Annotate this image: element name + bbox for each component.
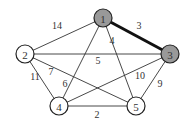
edge-weight-label: 7 [49, 66, 54, 77]
node-label: 4 [56, 101, 62, 113]
node-label: 1 [100, 13, 106, 25]
edge-weight-label: 10 [135, 70, 145, 81]
edge-weight-label: 5 [96, 55, 101, 66]
edge-weight-label: 9 [158, 78, 163, 89]
graph-node-3: 3 [161, 45, 179, 63]
graph-node-4: 4 [50, 97, 68, 115]
edge-weight-label: 6 [63, 78, 68, 89]
node-label: 2 [22, 49, 28, 61]
edge-weight-label: 2 [95, 109, 100, 120]
graph-node-2: 2 [16, 45, 34, 63]
edge-1-2 [25, 18, 103, 54]
edge-weight-label: 3 [137, 20, 142, 31]
graph-node-5: 5 [127, 97, 145, 115]
edge-weight-label: 14 [52, 20, 62, 31]
edge-weight-label: 4 [110, 35, 115, 46]
node-label: 3 [167, 49, 173, 61]
weighted-graph-diagram: 1436451171092 12345 [0, 0, 194, 124]
edge-weight-label: 11 [30, 71, 40, 82]
graph-node-1: 1 [94, 9, 112, 27]
node-label: 5 [133, 101, 139, 113]
